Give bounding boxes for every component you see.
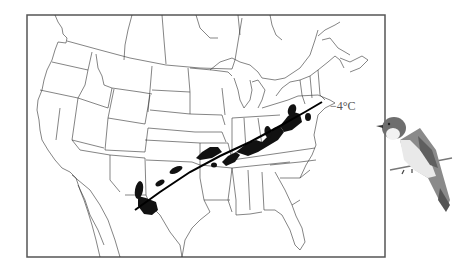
bird-illustration — [376, 117, 452, 212]
isotherm-label: −4°C — [330, 99, 356, 114]
map-frame — [27, 15, 385, 257]
north-america-map — [0, 0, 475, 269]
range-map-figure: −4°C — [0, 0, 475, 269]
